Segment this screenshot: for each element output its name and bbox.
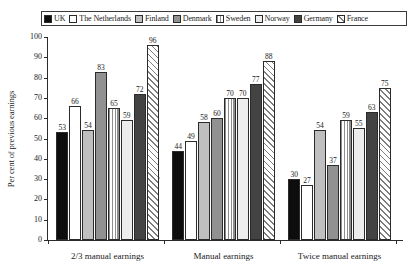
- bar-rect[interactable]: 54: [314, 130, 326, 240]
- bar-rect[interactable]: 96: [147, 45, 159, 240]
- legend-item-label: UK: [54, 14, 65, 23]
- bar-rect[interactable]: 72: [134, 94, 146, 240]
- bar-finland[interactable]: 58: [198, 37, 210, 240]
- chart-legend: UKThe NetherlandsFinlandDenmarkSwedenNor…: [41, 11, 407, 26]
- bar-value-label: 65: [110, 100, 118, 108]
- x-axis-category-label: Twice manual earnings: [298, 251, 381, 261]
- bar-group-1: 5366548365597296: [56, 37, 159, 240]
- legend-item-label: Sweden: [226, 14, 251, 23]
- y-axis-tick-label: 100: [20, 33, 42, 41]
- bar-uk[interactable]: 53: [56, 37, 68, 240]
- bar-rect[interactable]: 53: [56, 132, 68, 240]
- bar-rect[interactable]: 70: [237, 98, 249, 240]
- plot-area: 010203040506070809010053665483655972962/…: [47, 37, 403, 241]
- bar-rect[interactable]: 30: [288, 179, 300, 240]
- bar-denmark[interactable]: 37: [327, 37, 339, 240]
- bar-rect[interactable]: 59: [340, 120, 352, 240]
- bar-the-netherlands[interactable]: 66: [69, 37, 81, 240]
- x-axis-category-label: Manual earnings: [193, 251, 253, 261]
- bar-denmark[interactable]: 60: [211, 37, 223, 240]
- legend-swatch-icon: [44, 15, 52, 23]
- bar-rect[interactable]: 83: [95, 72, 107, 240]
- legend-swatch-icon: [135, 15, 143, 23]
- legend-item-label: Denmark: [183, 14, 212, 23]
- bar-the-netherlands[interactable]: 49: [185, 37, 197, 240]
- bar-finland[interactable]: 54: [82, 37, 94, 240]
- bar-france[interactable]: 75: [379, 37, 391, 240]
- legend-item-uk: UK: [44, 14, 65, 23]
- bar-uk[interactable]: 44: [172, 37, 184, 240]
- bar-value-label: 77: [252, 76, 260, 84]
- bar-rect[interactable]: 55: [353, 128, 365, 240]
- bar-sweden[interactable]: 70: [224, 37, 236, 240]
- bar-finland[interactable]: 54: [314, 37, 326, 240]
- y-axis-tick-label: 20: [20, 195, 42, 203]
- bar-rect[interactable]: 54: [82, 130, 94, 240]
- bar-value-label: 63: [368, 104, 376, 112]
- bar-rect[interactable]: 44: [172, 151, 184, 240]
- bar-rect[interactable]: 65: [108, 108, 120, 240]
- y-axis-title-text: Per cent of previous earnings: [6, 90, 16, 186]
- y-axis-tick: [44, 78, 48, 79]
- bar-uk[interactable]: 30: [288, 37, 300, 240]
- bar-rect[interactable]: 88: [263, 61, 275, 240]
- bar-rect[interactable]: 66: [69, 106, 81, 240]
- bar-value-label: 53: [58, 124, 66, 132]
- y-axis-title: Per cent of previous earnings: [6, 37, 16, 240]
- y-axis-tick-label: 60: [20, 114, 42, 122]
- bar-germany[interactable]: 63: [366, 37, 378, 240]
- bar-the-netherlands[interactable]: 27: [301, 37, 313, 240]
- bar-france[interactable]: 88: [263, 37, 275, 240]
- bar-germany[interactable]: 77: [250, 37, 262, 240]
- bar-france[interactable]: 96: [147, 37, 159, 240]
- bar-rect[interactable]: 77: [250, 84, 262, 240]
- bar-sweden[interactable]: 59: [340, 37, 352, 240]
- y-axis-tick: [44, 199, 48, 200]
- bar-norway[interactable]: 70: [237, 37, 249, 240]
- x-axis-tick: [280, 240, 281, 244]
- legend-swatch-icon: [173, 15, 181, 23]
- legend-item-norway: Norway: [255, 14, 290, 23]
- legend-item-label: France: [347, 14, 368, 23]
- legend-item-label: Germany: [304, 14, 333, 23]
- y-axis-tick-label: 0: [20, 236, 42, 244]
- x-axis-category-label: 2/3 manual earnings: [71, 251, 144, 261]
- bar-value-label: 72: [136, 86, 144, 94]
- legend-item-label: Finland: [145, 14, 169, 23]
- bar-group-3: 3027543759556375: [288, 37, 391, 240]
- legend-item-finland: Finland: [135, 14, 169, 23]
- bar-sweden[interactable]: 65: [108, 37, 120, 240]
- bar-rect[interactable]: 75: [379, 88, 391, 240]
- y-axis-tick-label: 70: [20, 94, 42, 102]
- bar-rect[interactable]: 59: [121, 120, 133, 240]
- bar-norway[interactable]: 55: [353, 37, 365, 240]
- bar-denmark[interactable]: 83: [95, 37, 107, 240]
- bar-value-label: 59: [123, 112, 131, 120]
- y-axis-tick: [44, 57, 48, 58]
- bar-rect[interactable]: 58: [198, 122, 210, 240]
- legend-item-germany: Germany: [294, 14, 333, 23]
- bar-rect[interactable]: 70: [224, 98, 236, 240]
- y-axis-tick-label: 50: [20, 135, 42, 143]
- bar-rect[interactable]: 37: [327, 165, 339, 240]
- y-axis-tick-label: 90: [20, 53, 42, 61]
- legend-item-the-netherlands: The Netherlands: [69, 14, 131, 23]
- bar-norway[interactable]: 59: [121, 37, 133, 240]
- bar-value-label: 49: [187, 133, 195, 141]
- bar-value-label: 96: [149, 37, 157, 45]
- legend-swatch-icon: [294, 15, 302, 23]
- legend-item-label: Norway: [265, 14, 290, 23]
- legend-swatch-icon: [255, 15, 263, 23]
- bar-value-label: 27: [303, 177, 311, 185]
- x-axis-tick: [164, 240, 165, 244]
- bar-germany[interactable]: 72: [134, 37, 146, 240]
- bar-rect[interactable]: 27: [301, 185, 313, 240]
- bar-value-label: 58: [200, 114, 208, 122]
- bar-rect[interactable]: 49: [185, 141, 197, 240]
- y-axis-tick: [44, 220, 48, 221]
- y-axis-tick: [44, 139, 48, 140]
- legend-swatch-icon: [216, 15, 224, 23]
- y-axis-tick: [44, 159, 48, 160]
- bar-rect[interactable]: 63: [366, 112, 378, 240]
- bar-rect[interactable]: 60: [211, 118, 223, 240]
